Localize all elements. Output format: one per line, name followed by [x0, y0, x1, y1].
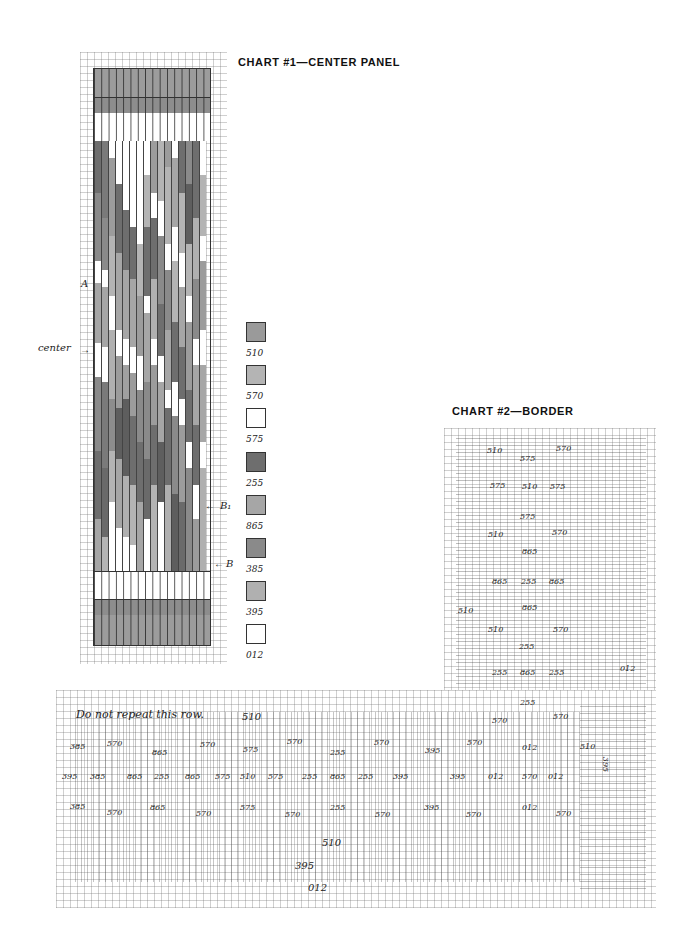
cell-label: 012	[488, 772, 503, 781]
cell-label: 575	[268, 772, 283, 781]
cell-label: 570	[107, 739, 122, 748]
cell-label: 570	[374, 738, 389, 747]
cell-label: 395	[450, 772, 465, 781]
legend-swatch-865	[246, 495, 266, 515]
cell-label: 385	[70, 742, 85, 751]
cell-label: 570	[492, 716, 507, 725]
cell-label: 570	[522, 772, 537, 781]
strand	[115, 141, 122, 571]
annotation-center: center	[38, 342, 71, 353]
row-label-510-top: 510	[242, 711, 261, 722]
cell-label: 255	[302, 772, 317, 781]
cell-label: 575	[520, 454, 535, 463]
cell-label: 865	[185, 772, 200, 781]
cell-label: 575	[520, 512, 535, 521]
legend-label: 570	[246, 391, 263, 401]
cell-label: 570	[556, 444, 571, 453]
cell-label: 570	[552, 528, 567, 537]
annotation-a: A	[81, 278, 88, 289]
cell-label: 570	[375, 810, 390, 819]
strand	[108, 141, 115, 571]
cell-label: 510	[488, 625, 503, 634]
top-band-575	[94, 113, 210, 141]
cell-label: 865	[522, 547, 537, 556]
cell-label: 255	[154, 772, 169, 781]
cell-label: 255	[519, 642, 534, 651]
strand	[122, 141, 129, 571]
cell-label: 865	[127, 772, 142, 781]
cell-label: 510	[240, 772, 255, 781]
cell-label: 575	[240, 803, 255, 812]
cell-label: 575	[550, 482, 565, 491]
horizontal-arm-stitches	[70, 712, 580, 882]
strand	[164, 141, 171, 571]
center-arrow-icon: →	[80, 344, 90, 355]
cell-label: 570	[200, 740, 215, 749]
strand	[150, 141, 157, 571]
cell-label: 865	[330, 772, 345, 781]
cell-label: 255	[330, 748, 345, 757]
cell-label: 570	[287, 737, 302, 746]
top-band-510	[94, 69, 210, 97]
legend-label: 395	[246, 607, 263, 617]
cell-label: 255	[549, 668, 564, 677]
bottom-row-label-012: 012	[308, 882, 327, 893]
bottom-row-label-510: 510	[322, 837, 341, 848]
strand	[94, 141, 101, 571]
cell-label: 865	[492, 577, 507, 586]
bottom-band-575	[94, 571, 210, 600]
legend-label: 385	[246, 564, 263, 574]
strand	[178, 141, 185, 571]
b-arrow-icon: ←	[214, 558, 224, 569]
strand	[136, 141, 143, 571]
annotation-b: B	[226, 558, 233, 569]
cell-label: 570	[467, 738, 482, 747]
cell-label: 865	[152, 748, 167, 757]
legend-swatch-510	[246, 322, 266, 342]
cell-label: 255	[358, 772, 373, 781]
cell-label: 385	[90, 772, 105, 781]
legend-label: 575	[246, 434, 263, 444]
strand	[157, 141, 164, 571]
cell-label: 865	[520, 668, 535, 677]
legend-swatch-385	[246, 538, 266, 558]
legend-label: 255	[246, 478, 263, 488]
cell-label: 255	[520, 698, 535, 707]
legend-label: 510	[246, 348, 263, 358]
cell-label: 510	[522, 482, 537, 491]
strand	[192, 141, 199, 571]
center-panel-chart	[93, 68, 211, 646]
legend-swatch-570	[246, 365, 266, 385]
cell-label: 570	[285, 810, 300, 819]
cell-label: 570	[553, 712, 568, 721]
legend-swatch-575	[246, 408, 266, 428]
cell-label: 570	[553, 625, 568, 634]
legend-swatch-255	[246, 452, 266, 472]
cell-label: 865	[150, 803, 165, 812]
cell-label: 012	[522, 743, 537, 752]
cell-label: 255	[521, 577, 536, 586]
bottom-row-label-395: 395	[295, 860, 314, 871]
annotation-b1: B₁	[220, 500, 231, 511]
cell-label: 570	[107, 808, 122, 817]
cell-label: 012	[522, 803, 537, 812]
cell-label: 575	[215, 772, 230, 781]
legend-swatch-012	[246, 624, 266, 644]
strand	[143, 141, 150, 571]
cell-label: 865	[549, 577, 564, 586]
strand	[129, 141, 136, 571]
cell-label: 510	[580, 742, 595, 751]
legend-label: 865	[246, 521, 263, 531]
corner-stitches	[580, 700, 646, 890]
strand	[171, 141, 178, 571]
chart1-title: CHART #1—CENTER PANEL	[238, 56, 400, 68]
cell-label: 575	[243, 745, 258, 754]
strand	[185, 141, 192, 571]
cell-label: 395	[62, 772, 77, 781]
bottom-band-510	[94, 615, 210, 646]
strand	[101, 141, 108, 571]
legend-label: 012	[246, 650, 263, 660]
cell-label: 255	[492, 668, 507, 677]
cell-label: 395	[425, 746, 440, 755]
cell-label: 385	[70, 802, 85, 811]
